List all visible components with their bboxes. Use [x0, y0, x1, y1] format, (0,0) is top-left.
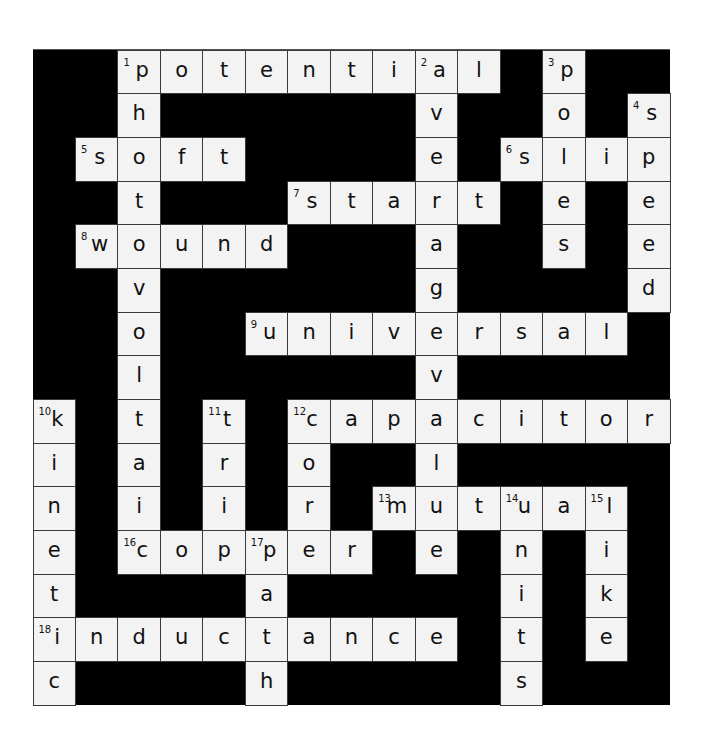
letter-cell[interactable]: a — [415, 399, 458, 444]
letter-cell[interactable]: o — [287, 443, 330, 488]
letter-cell[interactable]: l — [542, 137, 585, 182]
letter-cell[interactable]: h — [117, 93, 160, 138]
letter-cell[interactable]: 1p — [117, 50, 160, 95]
letter-cell[interactable]: d — [627, 268, 670, 313]
letter-cell[interactable]: n — [75, 617, 118, 662]
letter-cell[interactable]: r — [627, 399, 670, 444]
letter-cell[interactable]: e — [627, 224, 670, 269]
letter-cell[interactable]: v — [415, 93, 458, 138]
letter-cell[interactable]: a — [245, 574, 288, 619]
letter-cell[interactable]: t — [542, 399, 585, 444]
letter-cell[interactable]: i — [585, 137, 628, 182]
letter-cell[interactable]: a — [330, 399, 373, 444]
letter-cell[interactable]: t — [117, 181, 160, 226]
letter-cell[interactable]: p — [627, 137, 670, 182]
letter-cell[interactable]: 5s — [75, 137, 118, 182]
letter-cell[interactable]: o — [117, 312, 160, 357]
letter-cell[interactable]: 6s — [500, 137, 543, 182]
letter-cell[interactable]: o — [160, 530, 203, 575]
letter-cell[interactable]: u — [160, 224, 203, 269]
letter-cell[interactable]: t — [330, 181, 373, 226]
letter-cell[interactable]: c — [372, 617, 415, 662]
letter-cell[interactable]: i — [500, 399, 543, 444]
letter-cell[interactable]: e — [415, 530, 458, 575]
letter-cell[interactable]: t — [33, 574, 76, 619]
letter-cell[interactable]: u — [415, 486, 458, 531]
letter-cell[interactable]: i — [372, 50, 415, 95]
letter-cell[interactable]: 3p — [542, 50, 585, 95]
letter-cell[interactable]: r — [330, 530, 373, 575]
letter-cell[interactable]: e — [627, 181, 670, 226]
letter-cell[interactable]: 18i — [33, 617, 76, 662]
letter-cell[interactable]: n — [287, 312, 330, 357]
letter-cell[interactable]: o — [542, 93, 585, 138]
letter-cell[interactable]: o — [160, 50, 203, 95]
letter-cell[interactable]: e — [415, 312, 458, 357]
letter-cell[interactable]: c — [33, 661, 76, 706]
letter-cell[interactable]: 14u — [500, 486, 543, 531]
letter-cell[interactable]: r — [415, 181, 458, 226]
letter-cell[interactable]: v — [372, 312, 415, 357]
letter-cell[interactable]: o — [585, 399, 628, 444]
letter-cell[interactable]: i — [202, 486, 245, 531]
letter-cell[interactable]: 4s — [627, 93, 670, 138]
letter-cell[interactable]: l — [585, 312, 628, 357]
letter-cell[interactable]: g — [415, 268, 458, 313]
letter-cell[interactable]: e — [33, 530, 76, 575]
letter-cell[interactable]: e — [542, 181, 585, 226]
letter-cell[interactable]: 17p — [245, 530, 288, 575]
letter-cell[interactable]: t — [457, 181, 500, 226]
letter-cell[interactable]: e — [415, 617, 458, 662]
letter-cell[interactable]: a — [117, 443, 160, 488]
letter-cell[interactable]: 13m — [372, 486, 415, 531]
letter-cell[interactable]: o — [117, 224, 160, 269]
letter-cell[interactable]: o — [117, 137, 160, 182]
letter-cell[interactable]: r — [202, 443, 245, 488]
letter-cell[interactable]: e — [287, 530, 330, 575]
letter-cell[interactable]: i — [33, 443, 76, 488]
letter-cell[interactable]: e — [585, 617, 628, 662]
letter-cell[interactable]: t — [457, 486, 500, 531]
letter-cell[interactable]: c — [457, 399, 500, 444]
letter-cell[interactable]: t — [245, 617, 288, 662]
letter-cell[interactable]: a — [372, 181, 415, 226]
letter-cell[interactable]: r — [287, 486, 330, 531]
letter-cell[interactable]: i — [330, 312, 373, 357]
letter-cell[interactable]: s — [500, 312, 543, 357]
letter-cell[interactable]: d — [117, 617, 160, 662]
letter-cell[interactable]: 10k — [33, 399, 76, 444]
letter-cell[interactable]: i — [117, 486, 160, 531]
letter-cell[interactable]: s — [500, 661, 543, 706]
letter-cell[interactable]: i — [500, 574, 543, 619]
letter-cell[interactable]: n — [202, 224, 245, 269]
letter-cell[interactable]: u — [160, 617, 203, 662]
letter-cell[interactable]: 12c — [287, 399, 330, 444]
letter-cell[interactable]: t — [202, 137, 245, 182]
letter-cell[interactable]: l — [415, 443, 458, 488]
letter-cell[interactable]: p — [372, 399, 415, 444]
letter-cell[interactable]: 8w — [75, 224, 118, 269]
letter-cell[interactable]: a — [287, 617, 330, 662]
letter-cell[interactable]: d — [245, 224, 288, 269]
letter-cell[interactable]: n — [33, 486, 76, 531]
letter-cell[interactable]: e — [245, 50, 288, 95]
letter-cell[interactable]: 7s — [287, 181, 330, 226]
letter-cell[interactable]: f — [160, 137, 203, 182]
letter-cell[interactable]: a — [542, 312, 585, 357]
letter-cell[interactable]: h — [245, 661, 288, 706]
letter-cell[interactable]: p — [202, 530, 245, 575]
letter-cell[interactable]: l — [117, 355, 160, 400]
letter-cell[interactable]: c — [202, 617, 245, 662]
letter-cell[interactable]: v — [415, 355, 458, 400]
letter-cell[interactable]: n — [330, 617, 373, 662]
letter-cell[interactable]: n — [500, 530, 543, 575]
letter-cell[interactable]: 11t — [202, 399, 245, 444]
letter-cell[interactable]: t — [117, 399, 160, 444]
letter-cell[interactable]: v — [117, 268, 160, 313]
letter-cell[interactable]: t — [330, 50, 373, 95]
letter-cell[interactable]: s — [542, 224, 585, 269]
letter-cell[interactable]: t — [202, 50, 245, 95]
letter-cell[interactable]: 2a — [415, 50, 458, 95]
letter-cell[interactable]: e — [415, 137, 458, 182]
letter-cell[interactable]: k — [585, 574, 628, 619]
